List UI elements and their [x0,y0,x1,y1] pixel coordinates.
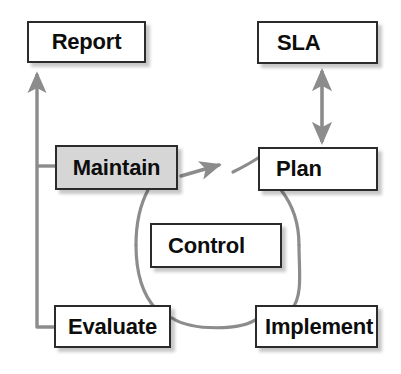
node-sla-label: SLA [277,32,320,54]
process-cycle-diagram: Report SLA Maintain Plan Control Evaluat… [0,0,401,374]
node-report-label: Report [52,31,122,53]
cycle-arc-top-left [136,190,148,245]
maintain-to-plan-arrow [181,165,219,176]
node-evaluate[interactable]: Evaluate [54,305,171,348]
cycle-arc-top-right [281,190,299,245]
node-plan-label: Plan [276,158,322,180]
arc-plan-inlet [233,158,258,172]
node-plan[interactable]: Plan [258,147,378,191]
node-control[interactable]: Control [150,223,282,268]
node-report[interactable]: Report [27,21,146,63]
node-maintain[interactable]: Maintain [55,145,178,190]
node-implement[interactable]: Implement [255,305,378,348]
cycle-arc-right [292,245,300,309]
node-sla[interactable]: SLA [257,21,378,64]
node-evaluate-label: Evaluate [68,316,157,338]
cycle-arc-bottom [172,318,258,328]
node-implement-label: Implement [265,316,373,338]
node-control-label: Control [168,235,245,257]
node-maintain-label: Maintain [73,157,161,179]
report-feedback-line [37,74,55,327]
